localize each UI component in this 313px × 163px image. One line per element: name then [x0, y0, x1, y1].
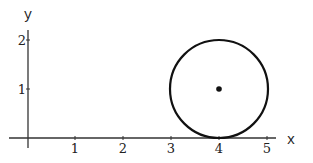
x-tick-label: 3 [167, 141, 175, 156]
x-tick-label: 2 [119, 141, 127, 156]
y-tick-label: 2 [18, 33, 26, 48]
y-tick-label: 1 [18, 82, 26, 97]
x-tick-label: 4 [215, 141, 223, 156]
x-tick-label: 5 [263, 141, 271, 156]
center-point [216, 86, 222, 92]
x-tick-label: 1 [71, 141, 79, 156]
x-axis-label: x [287, 132, 295, 148]
circle-plot: 1 2 3 4 5 1 2 x y [0, 0, 313, 163]
x-ticks: 1 2 3 4 5 [71, 136, 271, 156]
y-axis-label: y [24, 7, 32, 23]
